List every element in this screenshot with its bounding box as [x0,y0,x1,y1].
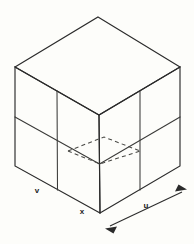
label-x: x [80,207,85,216]
cube-top-face [15,17,180,115]
label-v: v [35,186,40,195]
hidden-midplane [68,137,140,164]
figure-container: v x u [0,0,194,244]
dimension-arrow-head-left [105,227,117,234]
left-face-grid [15,91,100,190]
top-face-outline [15,17,180,115]
label-u: u [144,201,149,210]
hidden-midplane-back-edges [68,137,140,151]
isometric-cube-diagram: v x u [0,0,194,244]
dimension-arrow-head-right [175,185,187,192]
